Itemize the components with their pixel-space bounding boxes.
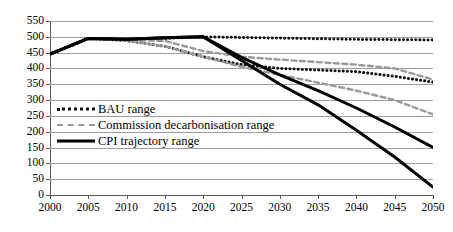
x-tick-label: 2035 [307,201,330,213]
legend-label: CPI trajectory range [98,135,199,148]
legend-item: CPI trajectory range [57,133,274,149]
x-tick-label: 2045 [383,201,406,213]
legend-label: Commission decarbonisation range [98,119,274,132]
legend-swatch-icon [57,104,95,114]
line-chart: 050100150200250300350400450500550 200020… [0,0,453,232]
legend-swatch-icon [57,136,95,146]
x-tick-label: 2015 [153,201,176,213]
x-tick-label: 2025 [230,201,253,213]
x-tick-label: 2000 [39,201,62,213]
legend-label: BAU range [98,103,155,116]
x-tick-label: 2050 [422,201,445,213]
x-tick-label: 2010 [115,201,138,213]
x-tick-label: 2040 [345,201,368,213]
x-tick-label: 2030 [268,201,291,213]
x-tick-label: 2005 [77,201,100,213]
legend-item: BAU range [57,101,274,117]
legend-item: Commission decarbonisation range [57,117,274,133]
legend: BAU rangeCommission decarbonisation rang… [57,101,274,149]
x-tick-label: 2020 [192,201,215,213]
legend-swatch-icon [57,120,95,130]
